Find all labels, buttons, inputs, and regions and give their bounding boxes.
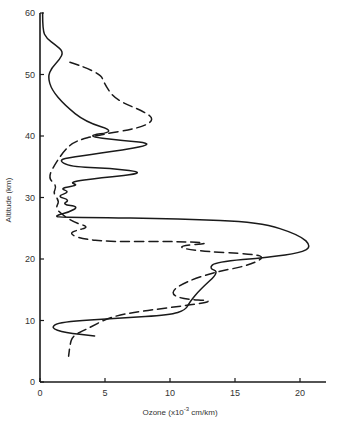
x-tick-label: 5 [102, 388, 107, 398]
y-tick-label: 10 [25, 316, 35, 326]
ozone-altitude-chart: 010203040506005101520 Ozone (x10-3 cm/km… [0, 0, 337, 424]
dashed-profile-line [50, 62, 262, 356]
x-tick-label: 20 [295, 388, 305, 398]
y-tick-label: 40 [25, 131, 35, 141]
y-tick-label: 30 [25, 193, 35, 203]
x-tick-label: 0 [37, 388, 42, 398]
y-tick-label: 0 [30, 377, 35, 387]
data-series [43, 13, 309, 356]
solid-profile-line [43, 13, 309, 336]
axes [40, 13, 326, 382]
y-tick-label: 50 [25, 70, 35, 80]
y-tick-label: 60 [25, 8, 35, 18]
y-axis-title: Altitude (km) [4, 177, 13, 222]
y-tick-label: 20 [25, 254, 35, 264]
x-axis-title: Ozone (x10-3 cm/km) [142, 406, 217, 417]
axis-ticks: 010203040506005101520 [25, 8, 305, 398]
x-tick-label: 10 [165, 388, 175, 398]
x-tick-label: 15 [230, 388, 240, 398]
